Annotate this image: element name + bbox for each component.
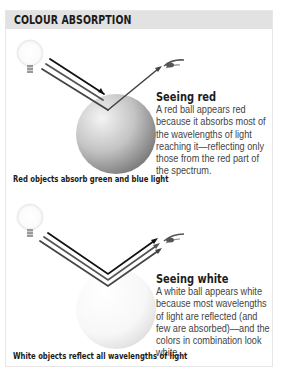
caption-red: Red objects absorb green and blue light xyxy=(13,174,169,184)
figure-seeing-red: Seeing red A red ball appears red becaus… xyxy=(6,29,272,189)
seeing-red-description: Seeing red A red ball appears red becaus… xyxy=(156,91,284,178)
panel-header: COLOUR ABSORPTION xyxy=(6,11,272,29)
red-ball xyxy=(76,94,156,174)
eye-icon xyxy=(164,234,184,243)
light-bulb-icon xyxy=(17,204,43,237)
seeing-red-heading: Seeing red xyxy=(156,91,266,104)
figure-seeing-white: Seeing white A white ball appears white … xyxy=(6,189,272,367)
panel-title: COLOUR ABSORPTION xyxy=(14,13,132,27)
seeing-white-description: Seeing white A white ball appears white … xyxy=(156,273,284,360)
seeing-white-text: A white ball appears white because most … xyxy=(156,286,271,360)
eye-icon xyxy=(164,60,184,68)
caption-white: White objects reflect all wavelengths of… xyxy=(13,351,187,361)
colour-absorption-panel: COLOUR ABSORPTION xyxy=(5,10,273,367)
light-bulb-icon xyxy=(17,40,43,73)
seeing-white-heading: Seeing white xyxy=(156,273,266,286)
seeing-red-text: A red ball appears red because it absorb… xyxy=(156,104,271,178)
